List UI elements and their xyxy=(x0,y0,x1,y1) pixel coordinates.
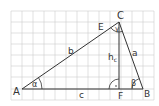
triangle-diagram: A B C F E b a c hc α β γ xyxy=(0,0,159,106)
angle-label-alpha: α xyxy=(32,80,37,89)
point-label-F: F xyxy=(118,91,123,101)
angle-label-gamma: γ xyxy=(115,25,119,33)
angle-label-beta: β xyxy=(131,79,136,88)
point-label-C: C xyxy=(117,10,124,21)
point-label-B: B xyxy=(144,89,150,99)
point-label-E: E xyxy=(98,22,104,32)
right-angle-dot-icon xyxy=(115,85,117,87)
point-label-A: A xyxy=(13,86,20,97)
height-label: hc xyxy=(108,52,117,63)
alpha-arc xyxy=(39,78,43,89)
side-label-c: c xyxy=(79,90,84,100)
side-label-b: b xyxy=(68,46,74,56)
triangle xyxy=(22,22,143,89)
side-label-a: a xyxy=(132,48,138,58)
right-angle-arc xyxy=(109,79,119,89)
